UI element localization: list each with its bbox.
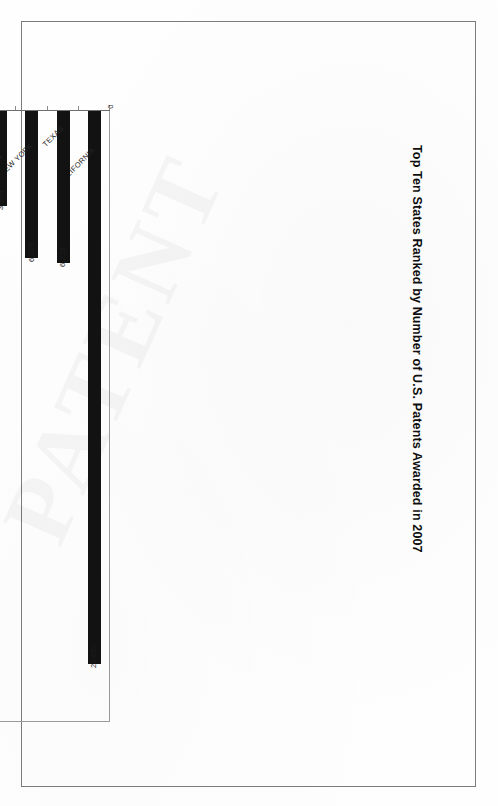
category-tick bbox=[15, 106, 16, 110]
axis-tick-label: 0 bbox=[106, 104, 115, 108]
category-tick bbox=[78, 106, 79, 110]
bar bbox=[88, 111, 101, 664]
category-tick bbox=[47, 106, 48, 110]
bar bbox=[26, 111, 39, 258]
scanned-page: PATENT 05,00010,00015,00020,00025,000 22… bbox=[0, 0, 498, 806]
bar-value-label: 22,601 bbox=[89, 644, 98, 668]
chart-title: Top Ten States Ranked by Number of U.S. … bbox=[410, 145, 424, 575]
bar-value-label: 6,228 bbox=[58, 248, 67, 268]
bar-chart: 05,00010,00015,00020,00025,000 22,601CAL… bbox=[0, 110, 110, 730]
bar-value-label: 6,025 bbox=[27, 243, 36, 263]
bar-value-label: 3,894 bbox=[0, 191, 4, 211]
category-tick bbox=[109, 106, 110, 110]
